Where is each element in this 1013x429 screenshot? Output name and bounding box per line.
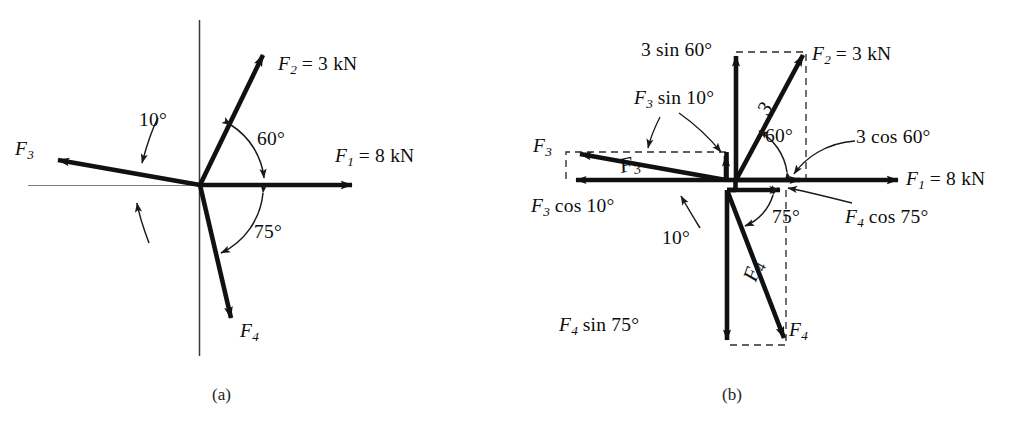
panel-a-f2-value: = 3 kN xyxy=(302,53,358,74)
panel-b-f3cos10-subscript: 3 xyxy=(543,204,550,219)
panel-b-f2-subscript: 2 xyxy=(824,52,831,67)
panel-b-f1-symbol: F xyxy=(906,168,918,189)
panel-b-caption: (b) xyxy=(722,385,742,405)
panel-b-f4cos75-rest: cos 75° xyxy=(869,206,929,227)
panel-b-f3cos10-rest: cos 10° xyxy=(555,195,615,216)
panel-b-vector-f2 xyxy=(736,55,803,180)
panel-a-angle-60: 60° xyxy=(257,129,285,149)
panel-b-leader-f3sin10-a xyxy=(648,117,660,148)
panel-a-f3-symbol: F xyxy=(15,138,27,159)
panel-a-arc-10-lower xyxy=(137,203,149,243)
panel-a-vector-f3 xyxy=(58,160,200,185)
panel-a-f3-subscript: 3 xyxy=(27,147,34,162)
panel-b-f1-value: = 8 kN xyxy=(930,168,986,189)
panel-a-f4-symbol: F xyxy=(240,320,252,341)
panel-b-label-3sin60: 3 sin 60° xyxy=(641,40,712,60)
panel-b-label-f1: F1 = 8 kN xyxy=(906,169,985,191)
panel-b-f3-subscript: 3 xyxy=(545,144,552,159)
panel-b-label-3cos60: 3 cos 60° xyxy=(856,127,931,147)
panel-a-f4-subscript: 4 xyxy=(252,329,259,344)
panel-b-f4-symbol: F xyxy=(789,319,801,340)
panel-b-f4-subscript: 4 xyxy=(801,328,808,343)
panel-b-label-f4cos75: F4 cos 75° xyxy=(845,207,928,229)
panel-b-f3sin10-symbol: F xyxy=(634,87,646,108)
panel-b-leader-3cos60 xyxy=(794,141,855,174)
panel-a-angle-10: 10° xyxy=(139,110,167,130)
panel-b-label-f4: F4 xyxy=(789,320,808,342)
panel-b-vector-f3 xyxy=(580,154,726,180)
panel-b-label-f3: F3 xyxy=(533,136,552,158)
panel-b-f4sin75-rest: sin 75° xyxy=(583,314,639,335)
panel-a-label-f3: F3 xyxy=(15,139,34,161)
panel-b-label-f2: F2 = 3 kN xyxy=(812,44,891,66)
panel-b-arc-10 xyxy=(681,196,700,228)
panel-a-label-f4: F4 xyxy=(240,321,259,343)
panel-a-vector-f4 xyxy=(200,185,231,318)
panel-b-f2-value: = 3 kN xyxy=(836,43,892,64)
panel-b-f1-subscript: 1 xyxy=(918,177,925,192)
panel-a-caption: (a) xyxy=(212,385,231,405)
panel-b-f3cos10-symbol: F xyxy=(531,195,543,216)
figure-root: F2 = 3 kN F1 = 8 kN F3 F4 10° 60° 75° (a… xyxy=(0,0,1013,429)
panel-a-f1-symbol: F xyxy=(335,145,347,166)
panel-b-f3sin10-subscript: 3 xyxy=(646,96,653,111)
panel-b-f3-symbol: F xyxy=(533,135,545,156)
panel-b-f4sin75-subscript: 4 xyxy=(571,323,578,338)
panel-a-f1-subscript: 1 xyxy=(347,154,354,169)
panel-b-arc-75 xyxy=(745,195,773,226)
panel-b-f3sin10-rest: sin 10° xyxy=(658,87,714,108)
panel-b-angle-10: 10° xyxy=(662,228,690,248)
panel-b-label-f3sin10: F3 sin 10° xyxy=(634,88,714,110)
panel-b-f4cos75-symbol: F xyxy=(845,206,857,227)
panel-a-label-f2: F2 = 3 kN xyxy=(278,54,357,76)
panel-b-graphics xyxy=(566,52,898,345)
panel-b-angle-60: 60° xyxy=(765,126,793,146)
panel-a-f1-value: = 8 kN xyxy=(359,145,415,166)
panel-a-label-f1: F1 = 8 kN xyxy=(335,146,414,168)
panel-b-f2-symbol: F xyxy=(812,43,824,64)
panel-b-angle-75: 75° xyxy=(772,207,800,227)
panel-b-f4cos75-subscript: 4 xyxy=(857,215,864,230)
panel-a-vector-f2 xyxy=(200,55,263,185)
panel-b-f4sin75-symbol: F xyxy=(559,314,571,335)
panel-b-label-f4sin75: F4 sin 75° xyxy=(559,315,639,337)
panel-a-angle-75: 75° xyxy=(254,222,282,242)
panel-b-leader-f3sin10-b xyxy=(679,113,721,152)
panel-b-leader-f4cos75 xyxy=(788,188,852,203)
panel-a-f2-symbol: F xyxy=(278,53,290,74)
panel-b-label-f3cos10: F3 cos 10° xyxy=(531,196,614,218)
panel-a-f2-subscript: 2 xyxy=(290,62,297,77)
